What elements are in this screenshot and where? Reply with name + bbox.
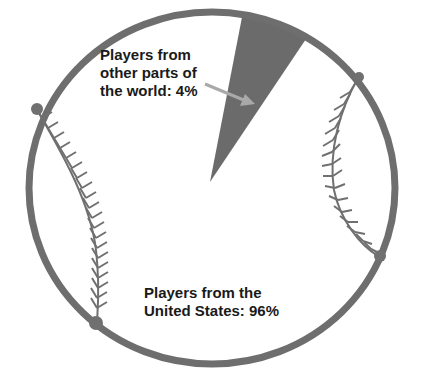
label-line: other parts of xyxy=(100,64,230,82)
label-line: the world: 4% xyxy=(100,82,230,100)
right-seam-stitches xyxy=(322,72,386,262)
label-united-states: Players from the United States: 96% xyxy=(144,284,304,320)
label-other-world: Players from other parts of the world: 4… xyxy=(100,46,230,100)
label-line: United States: 96% xyxy=(144,302,304,320)
label-line: Players from the xyxy=(144,284,304,302)
label-line: Players from xyxy=(100,46,230,64)
